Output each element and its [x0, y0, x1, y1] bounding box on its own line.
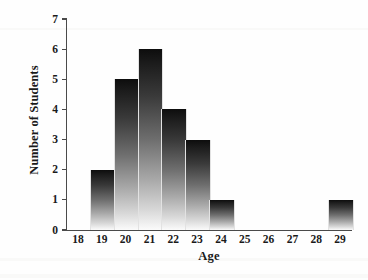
y-tick-label: 2	[44, 164, 58, 175]
y-tick-label: 1	[44, 194, 58, 205]
x-tick-label: 29	[325, 233, 355, 245]
histogram-figure: Number of Students 01234567 181920212223…	[0, 0, 368, 280]
bar	[209, 200, 235, 230]
bar	[161, 109, 187, 230]
bar	[114, 79, 140, 230]
scan-artifact-band	[0, 274, 368, 278]
y-tick-mark	[62, 139, 67, 140]
y-tick-label: 6	[44, 44, 58, 55]
bar	[185, 140, 211, 230]
y-tick-mark	[62, 199, 67, 200]
y-tick-label: 0	[44, 225, 58, 236]
y-tick-label: 4	[44, 104, 58, 115]
y-tick-label: 3	[44, 134, 58, 145]
bar	[328, 200, 354, 230]
y-tick-mark	[62, 49, 67, 50]
y-tick-label: 7	[44, 14, 58, 25]
plot-area: 01234567 181920212223242526272829	[66, 19, 352, 230]
y-tick-label: 5	[44, 74, 58, 85]
x-axis-title: Age	[66, 249, 352, 264]
y-tick-mark	[62, 18, 67, 19]
y-tick-mark	[62, 79, 67, 80]
y-tick-mark	[62, 109, 67, 110]
bar	[90, 170, 116, 230]
bar	[138, 49, 164, 230]
x-axis-line	[66, 230, 352, 231]
y-tick-mark	[62, 169, 67, 170]
y-tick-mark	[62, 229, 67, 230]
y-axis-title: Number of Students	[24, 5, 44, 235]
